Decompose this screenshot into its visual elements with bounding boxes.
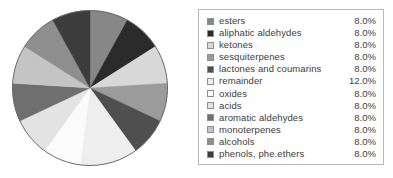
pie-chart-figure: esters8.0%aliphatic aldehydes8.0%ketones…: [0, 0, 393, 178]
legend-item-value: 8.0%: [344, 148, 376, 160]
legend-item: alcohols8.0%: [207, 136, 376, 148]
legend-item-label: aliphatic aldehydes: [219, 27, 344, 39]
legend-item-label: lactones and coumarins: [219, 63, 344, 75]
legend-item: acids8.0%: [207, 100, 376, 112]
legend-box: esters8.0%aliphatic aldehydes8.0%ketones…: [198, 9, 384, 165]
legend-item-label: remainder: [219, 75, 344, 87]
legend-item-value: 8.0%: [344, 27, 376, 39]
legend-swatch-icon: [207, 66, 214, 73]
legend-item-value: 8.0%: [344, 124, 376, 136]
legend-item-list: esters8.0%aliphatic aldehydes8.0%ketones…: [207, 15, 376, 160]
legend-item: ketones8.0%: [207, 39, 376, 51]
legend-item: phenols, phe.ethers8.0%: [207, 148, 376, 160]
legend-item-label: monoterpenes: [219, 124, 344, 136]
legend-swatch-icon: [207, 54, 214, 61]
legend-swatch-icon: [207, 151, 214, 158]
pie-chart-plot-area: [11, 9, 169, 167]
legend-swatch-icon: [207, 138, 214, 145]
legend-item-label: phenols, phe.ethers: [219, 148, 344, 160]
legend-item-label: esters: [219, 15, 344, 27]
legend-item: oxides8.0%: [207, 88, 376, 100]
pie-chart-svg: [11, 9, 169, 167]
pie-slice-group: [12, 11, 167, 166]
legend-item: aromatic aldehydes8.0%: [207, 112, 376, 124]
legend-item-value: 8.0%: [344, 15, 376, 27]
legend-item-label: ketones: [219, 39, 344, 51]
legend-swatch-icon: [207, 114, 214, 121]
legend-item-label: sesquiterpenes: [219, 51, 344, 63]
legend-swatch-icon: [207, 126, 214, 133]
legend-swatch-icon: [207, 78, 214, 85]
legend-swatch-icon: [207, 18, 214, 25]
legend-item: esters8.0%: [207, 15, 376, 27]
legend-item-value: 8.0%: [344, 63, 376, 75]
legend-item-value: 8.0%: [344, 136, 376, 148]
legend-swatch-icon: [207, 42, 214, 49]
legend-item: aliphatic aldehydes8.0%: [207, 27, 376, 39]
legend-item: monoterpenes8.0%: [207, 124, 376, 136]
legend-item-label: acids: [219, 100, 344, 112]
legend-item-value: 12.0%: [344, 75, 376, 87]
legend-item-value: 8.0%: [344, 51, 376, 63]
legend-item-value: 8.0%: [344, 112, 376, 124]
legend-item: sesquiterpenes8.0%: [207, 51, 376, 63]
legend-item-label: alcohols: [219, 136, 344, 148]
legend-item-value: 8.0%: [344, 100, 376, 112]
legend-item-value: 8.0%: [344, 88, 376, 100]
legend-item-label: aromatic aldehydes: [219, 112, 344, 124]
legend-item: lactones and coumarins8.0%: [207, 63, 376, 75]
legend-item-label: oxides: [219, 88, 344, 100]
legend-swatch-icon: [207, 90, 214, 97]
legend-swatch-icon: [207, 102, 214, 109]
legend-item: remainder12.0%: [207, 75, 376, 87]
legend-swatch-icon: [207, 30, 214, 37]
legend-item-value: 8.0%: [344, 39, 376, 51]
